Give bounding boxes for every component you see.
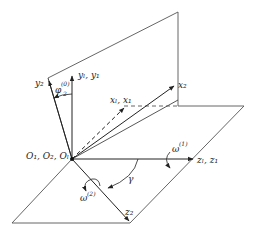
label-x2: x₂ — [178, 80, 187, 90]
label-y2: y₂ — [34, 78, 44, 88]
gamma-angle-arc — [108, 159, 138, 188]
label-z2: z₂ — [124, 207, 134, 217]
vertical-plane — [48, 12, 178, 106]
label-origin: O₁, O₂, Oₗ — [26, 151, 69, 161]
label-omega2-sup: (2) — [87, 190, 96, 197]
label-xl-x1: xₗ, x₁ — [110, 95, 132, 105]
label-gamma: γ — [128, 174, 134, 184]
coordinate-frames-diagram: y₂ yₗ, y₁ φ (0) 2 xₗ, x₁ x₂ O₁, O₂, Oₗ ω… — [0, 0, 255, 237]
label-omega1-sup: (1) — [179, 140, 188, 147]
label-zl-z1: zₗ, z₁ — [196, 155, 218, 165]
xl-axis — [72, 108, 124, 159]
x2-axis-second — [72, 100, 178, 159]
label-phi-sub: 2 — [62, 90, 67, 97]
omega1-rotation-icon — [167, 152, 171, 168]
horizontal-plane-right-edge — [130, 106, 244, 223]
label-phi-sup: (0) — [61, 80, 70, 87]
label-yl-y1: yₗ, y₁ — [77, 70, 100, 80]
z2-axis — [72, 159, 129, 221]
origin-point — [70, 157, 74, 161]
horizontal-plane — [12, 159, 72, 223]
